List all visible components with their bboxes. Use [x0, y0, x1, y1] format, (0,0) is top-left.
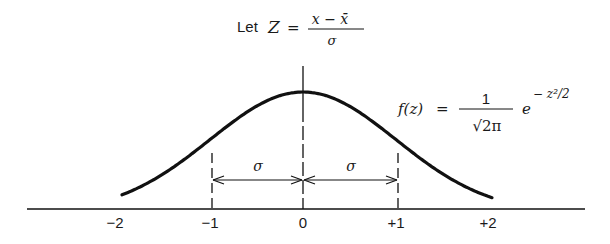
density-exponent: − z²/2: [533, 87, 570, 101]
formula-numerator: x − x̄: [312, 11, 349, 27]
right-sigma-arrow: [304, 176, 397, 184]
formula-prefix: Let: [237, 18, 259, 35]
density-lhs: f(z): [397, 100, 423, 118]
normal-distribution-diagram: σ σ −2 −1 0 +1 +2 Let Z = x − x̄ σ f(z) …: [0, 0, 610, 244]
left-sigma-label: σ: [253, 158, 263, 174]
right-sigma-label: σ: [346, 158, 356, 174]
density-numerator: 1: [482, 90, 490, 107]
density-equals: =: [436, 100, 449, 118]
tick-label-0: 0: [299, 214, 307, 231]
formula-variable: Z: [267, 17, 281, 37]
density-denominator: √2π: [473, 117, 502, 135]
tick-label-plus-1: +1: [387, 214, 404, 231]
formula-equals: =: [287, 19, 300, 37]
density-formula: f(z) = 1 √2π e − z²/2: [397, 87, 570, 135]
standardization-formula: Let Z = x − x̄ σ: [237, 11, 364, 48]
left-sigma-arrow: [213, 176, 302, 184]
density-base: e: [522, 100, 531, 118]
tick-label-minus-2: −2: [106, 214, 123, 231]
tick-label-plus-2: +2: [479, 214, 496, 231]
formula-denominator: σ: [328, 33, 338, 48]
tick-label-minus-1: −1: [201, 214, 218, 231]
